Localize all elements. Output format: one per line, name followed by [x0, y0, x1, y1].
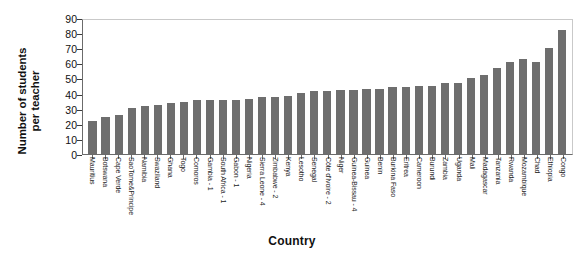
- bar-slot: [477, 20, 490, 154]
- y-axis-tick-labels: 9080706050403020100: [51, 0, 77, 262]
- bar-slot: [386, 20, 399, 154]
- x-axis-tick-label: Nigeria: [245, 157, 252, 178]
- bar: [271, 97, 279, 154]
- bar: [362, 89, 370, 155]
- bar-slot: [269, 20, 282, 154]
- bar: [349, 90, 357, 154]
- bar-slot: [530, 20, 543, 154]
- bar: [506, 62, 514, 154]
- y-axis-tick-mark: [77, 64, 82, 65]
- bar: [375, 89, 383, 155]
- x-axis-tick-label: South Africa - 1: [219, 157, 226, 203]
- x-axis-tick-label: Namibia: [140, 157, 147, 182]
- bar-slot: [99, 20, 112, 154]
- x-axis-tick-label: Botswana: [101, 157, 108, 187]
- x-axis-tick-label: Guinea: [363, 157, 370, 179]
- bar: [323, 91, 331, 154]
- bar: [558, 30, 566, 154]
- bar: [388, 87, 396, 154]
- x-axis-tick-label: Mali: [468, 157, 475, 169]
- x-axis-tick-label: Kenya: [285, 157, 292, 176]
- bar: [101, 117, 109, 154]
- bar: [154, 105, 162, 154]
- bar: [115, 115, 123, 154]
- bar: [467, 78, 475, 154]
- bar-slot: [347, 20, 360, 154]
- y-axis-title-line1: Number of students: [16, 26, 29, 176]
- x-axis-tick-label: Niger: [337, 157, 344, 173]
- x-axis-tick-label: Sierra Leone - 4: [258, 157, 265, 206]
- y-axis-tick-mark: [77, 155, 82, 156]
- plot-area: [82, 19, 573, 155]
- bar: [402, 87, 410, 154]
- bar: [415, 86, 423, 154]
- bar: [219, 100, 227, 154]
- x-axis-tick-label: Madagascar: [481, 157, 488, 195]
- y-axis-tick-mark: [77, 125, 82, 126]
- bar: [128, 108, 136, 154]
- bar: [480, 75, 488, 154]
- bar: [167, 103, 175, 154]
- x-axis-tick-label: SaoTome&Principe: [127, 157, 134, 215]
- bar-slot: [464, 20, 477, 154]
- y-axis-tick-mark: [77, 95, 82, 96]
- x-axis-tick-label: Senegal: [311, 157, 318, 182]
- x-axis-tick-label: Ethiopia: [547, 157, 554, 182]
- y-axis-tick-label: 30: [53, 105, 77, 115]
- x-axis-tick-label: Togo: [180, 157, 187, 172]
- bar-slot: [334, 20, 347, 154]
- bar: [336, 90, 344, 154]
- y-axis-tick-mark: [77, 140, 82, 141]
- x-axis-tick-label: Tanzania: [494, 157, 501, 184]
- y-axis-tick-label: 20: [53, 120, 77, 130]
- bar-slot: [556, 20, 569, 154]
- bar-series: [83, 20, 572, 154]
- y-axis-tick-mark: [77, 110, 82, 111]
- bar-slot: [295, 20, 308, 154]
- bar: [180, 102, 188, 154]
- bar: [88, 121, 96, 154]
- y-axis-tick-label: 80: [53, 29, 77, 39]
- x-axis-tick-label: Zambia: [442, 157, 449, 180]
- x-axis-tick-label: Swaziland: [154, 157, 161, 188]
- x-axis-tick-label: Gambia - 1: [206, 157, 213, 191]
- x-axis-tick-label: Benin: [376, 157, 383, 174]
- x-axis-tick-labels: MauritiusBotswanaCape VerdeSaoTome&Princ…: [82, 157, 573, 227]
- bar: [206, 100, 214, 154]
- bar: [232, 100, 240, 154]
- y-axis-tick-label: 90: [53, 14, 77, 24]
- y-axis-tick-mark: [77, 49, 82, 50]
- bar: [545, 48, 553, 154]
- bar-slot: [451, 20, 464, 154]
- bar-slot: [321, 20, 334, 154]
- bar: [258, 97, 266, 154]
- bar: [532, 62, 540, 154]
- bar-slot: [425, 20, 438, 154]
- bar-slot: [86, 20, 99, 154]
- bar-slot: [282, 20, 295, 154]
- y-axis-tick-mark: [77, 34, 82, 35]
- bar-slot: [360, 20, 373, 154]
- bar-slot: [517, 20, 530, 154]
- bar-slot: [203, 20, 216, 154]
- bar-slot: [112, 20, 125, 154]
- bar-slot: [164, 20, 177, 154]
- y-axis-title-line2: per teacher: [29, 26, 42, 176]
- bar-slot: [399, 20, 412, 154]
- y-axis-title: Number of students per teacher: [16, 26, 42, 176]
- bar: [141, 106, 149, 154]
- x-axis-tick-label: Mauritius: [88, 157, 95, 185]
- bar-slot: [230, 20, 243, 154]
- x-axis-tick-label: Lesotho: [298, 157, 305, 181]
- bar: [193, 100, 201, 154]
- bar-chart: Number of students per teacher 908070605…: [0, 0, 584, 262]
- x-axis-tick-label: Congo: [560, 157, 567, 177]
- y-axis-tick-label: 40: [53, 90, 77, 100]
- x-axis-tick-label: Cameroon: [416, 157, 423, 189]
- y-axis-tick-label: 0: [53, 150, 77, 160]
- bar-slot: [216, 20, 229, 154]
- y-axis-tick-mark: [77, 79, 82, 80]
- bar-slot: [504, 20, 517, 154]
- bar-slot: [256, 20, 269, 154]
- bar-slot: [243, 20, 256, 154]
